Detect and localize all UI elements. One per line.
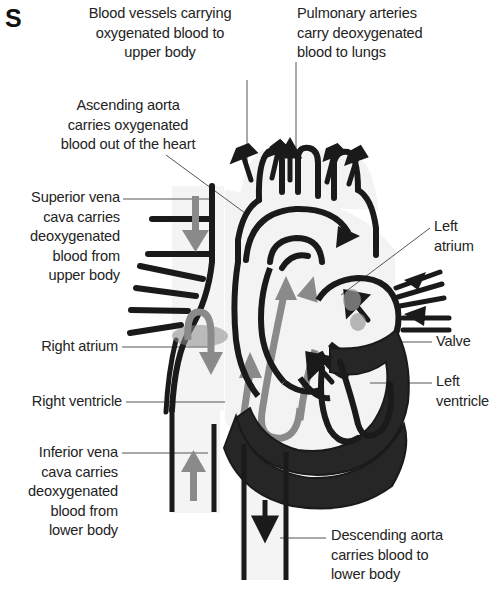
gray-blur-la-1 bbox=[343, 289, 361, 311]
label-inferior-vena-cava: Inferior vena cava carries deoxygenated … bbox=[2, 443, 118, 541]
label-right-ventricle: Right ventricle bbox=[0, 392, 122, 412]
label-valve: Valve bbox=[436, 332, 496, 352]
label-left-atrium: Left atrium bbox=[434, 217, 496, 256]
heart-diagram-figure: S bbox=[0, 0, 497, 590]
label-superior-vena-cava: Superior vena cava carries deoxygenated … bbox=[2, 188, 120, 286]
label-left-ventricle: Left ventricle bbox=[436, 372, 497, 411]
label-upper-body-vessels: Blood vessels carrying oxygenated blood … bbox=[60, 4, 260, 63]
label-descending-aorta: Descending aorta carries blood to lower … bbox=[331, 526, 497, 585]
label-pulmonary-arteries: Pulmonary arteries carry deoxygenated bl… bbox=[297, 4, 497, 63]
label-ascending-aorta: Ascending aorta carries oxygenated blood… bbox=[38, 96, 218, 155]
gray-blur-la-2 bbox=[350, 313, 366, 331]
gray-blur-right-atrium bbox=[172, 325, 228, 347]
label-right-atrium: Right atrium bbox=[2, 337, 118, 357]
